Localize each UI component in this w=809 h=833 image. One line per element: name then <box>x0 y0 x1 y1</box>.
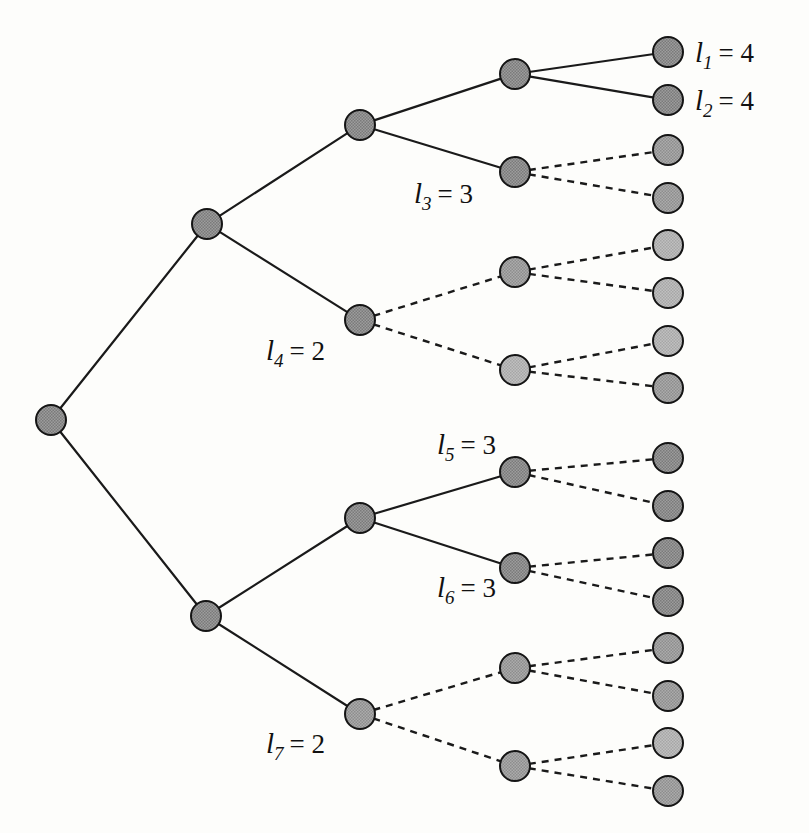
figure-canvas: l1= 4l2= 4l3= 3l4= 2l5= 3l6= 3l7= 2 <box>0 0 809 833</box>
tree-edge-solid <box>60 235 199 409</box>
tree-node-n-l5[interactable] <box>500 457 530 487</box>
tree-edge-dashed <box>529 274 654 291</box>
codeword-length-label-l5: l5= 3 <box>437 428 496 465</box>
tree-edge-dashed <box>373 718 501 761</box>
tree-node-n-top[interactable] <box>192 209 222 239</box>
codeword-length-label-l6: l6= 3 <box>437 571 496 608</box>
tree-edge-solid <box>218 526 348 609</box>
tree-node-leaf-11[interactable] <box>653 538 683 568</box>
tree-node-n-bot[interactable] <box>191 601 221 631</box>
tree-edge-dashed <box>529 650 654 666</box>
tree-edge-dashed <box>529 344 654 368</box>
tree-edge-dashed <box>373 324 501 365</box>
tree-edge-solid <box>219 231 348 312</box>
tree-node-leaf-14[interactable] <box>653 681 683 711</box>
tree-edge-dashed <box>373 672 501 710</box>
tree-node-n-a[interactable] <box>345 110 375 140</box>
tree-edge-dashed <box>529 459 654 470</box>
edges-layer <box>60 54 655 789</box>
tree-node-leaf-9[interactable] <box>653 443 683 473</box>
tree-node-leaf-16[interactable] <box>653 776 683 806</box>
codeword-length-label-l3: l3= 3 <box>414 177 473 214</box>
tree-node-n-l4[interactable] <box>345 305 375 335</box>
binary-tree-diagram: l1= 4l2= 4l3= 3l4= 2l5= 3l6= 3l7= 2 <box>0 0 809 833</box>
tree-edge-solid <box>529 76 654 97</box>
tree-edge-solid <box>218 624 348 707</box>
tree-node-leaf-4[interactable] <box>653 183 683 213</box>
tree-edge-solid <box>60 431 198 605</box>
tree-edge-dashed <box>529 554 654 566</box>
tree-node-leaf-6[interactable] <box>653 278 683 308</box>
tree-node-n-e[interactable] <box>500 355 530 385</box>
tree-node-n-g[interactable] <box>500 751 530 781</box>
tree-node-n-l3[interactable] <box>500 157 530 187</box>
tree-edge-solid <box>219 133 348 217</box>
tree-node-leaf-5[interactable] <box>653 230 683 260</box>
tree-edge-dashed <box>529 475 655 503</box>
tree-node-leaf-10[interactable] <box>653 491 683 521</box>
tree-edge-dashed <box>373 276 501 316</box>
tree-edge-solid <box>373 129 501 168</box>
tree-node-n-b[interactable] <box>345 503 375 533</box>
tree-edge-solid <box>373 476 501 514</box>
tree-edge-solid <box>373 522 501 563</box>
tree-edge-dashed <box>529 745 654 764</box>
tree-edge-solid <box>529 54 654 72</box>
tree-node-n-f[interactable] <box>500 653 530 683</box>
tree-node-leaf-3[interactable] <box>653 135 683 165</box>
tree-node-n-d[interactable] <box>500 257 530 287</box>
tree-node-leaf-15[interactable] <box>653 728 683 758</box>
tree-node-n-l7[interactable] <box>345 699 375 729</box>
codeword-length-label-l4: l4= 2 <box>266 334 325 371</box>
tree-node-leaf-1[interactable] <box>653 37 683 67</box>
tree-edge-dashed <box>529 174 654 195</box>
codeword-length-label-l7: l7= 2 <box>266 727 325 764</box>
tree-edge-dashed <box>529 571 655 598</box>
tree-node-n-c[interactable] <box>500 59 530 89</box>
tree-node-leaf-13[interactable] <box>653 633 683 663</box>
tree-node-leaf-7[interactable] <box>653 326 683 356</box>
tree-edge-dashed <box>529 152 654 170</box>
nodes-layer <box>36 37 683 806</box>
tree-edge-dashed <box>529 372 654 387</box>
codeword-length-label-l1: l1= 4 <box>695 36 755 73</box>
tree-edge-solid <box>373 78 501 120</box>
tree-edge-dashed <box>529 671 654 694</box>
tree-node-n-l6[interactable] <box>500 553 530 583</box>
tree-edge-dashed <box>529 768 654 788</box>
codeword-length-label-l2: l2= 4 <box>695 84 755 121</box>
tree-node-leaf-8[interactable] <box>653 373 683 403</box>
tree-edge-dashed <box>529 247 654 269</box>
tree-node-leaf-2[interactable] <box>653 85 683 115</box>
tree-node-leaf-12[interactable] <box>653 586 683 616</box>
tree-node-root[interactable] <box>36 405 66 435</box>
